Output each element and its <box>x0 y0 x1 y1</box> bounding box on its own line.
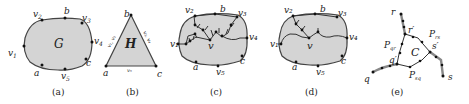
path-r-rp <box>401 14 405 34</box>
label-p-rs: Prs <box>428 29 440 40</box>
label-v: v <box>208 40 214 51</box>
label-s-prime: s′ <box>432 41 439 51</box>
region-label-h: H <box>124 37 137 51</box>
caption-c: (c) <box>210 87 222 97</box>
label-v4: v₄ <box>349 32 358 42</box>
caption-b: (b) <box>126 87 139 97</box>
path-sp-s <box>430 52 443 76</box>
label-a: a <box>292 62 297 72</box>
label-v1: v1 <box>8 48 17 59</box>
label-v2: v₂ <box>185 5 194 15</box>
label-a: a <box>103 68 108 78</box>
path-q-qp <box>373 64 397 72</box>
label-v3: v3 <box>82 13 91 24</box>
label-v2: v₂ <box>284 5 293 15</box>
label-b: b <box>320 4 326 14</box>
label-a: a <box>193 62 198 72</box>
panel-a: G v2 b v3 v4 c v5 a v1 (a) <box>8 6 103 97</box>
caption-a: (a) <box>52 87 64 97</box>
label-v1: v₁ <box>170 39 179 49</box>
panel-c: v v₂ b v₃ v₄ c v₅ a v₁ (c) <box>170 4 258 97</box>
caption-e: (e) <box>391 87 403 97</box>
label-v: v <box>307 40 313 51</box>
caption-d: (d) <box>305 87 318 97</box>
region-label-c: C <box>411 46 420 59</box>
label-p-sq: Psq <box>408 70 421 82</box>
label-q: q <box>364 74 370 84</box>
edge-label-bottom: v₅ <box>127 67 132 73</box>
figure: G v2 b v3 v4 c v5 a v1 (a) H b a c v₁, v… <box>0 0 469 104</box>
label-v4: v₄ <box>249 32 258 42</box>
label-s: s <box>448 72 453 82</box>
vertex-a <box>41 64 44 67</box>
label-v2: v2 <box>33 9 42 20</box>
vertex-b <box>130 14 133 17</box>
label-v5: v₅ <box>316 67 325 77</box>
vertex-c <box>155 65 158 68</box>
label-c: c <box>157 69 162 79</box>
label-c: c <box>240 56 245 66</box>
label-b: b <box>64 6 70 16</box>
label-v4: v4 <box>94 36 103 47</box>
label-q-prime: q′ <box>389 55 397 65</box>
label-a: a <box>34 68 39 78</box>
vertex-v1 <box>23 45 26 48</box>
label-v5: v5 <box>61 71 70 82</box>
label-p-qr: Pqr <box>383 40 396 52</box>
label-b: b <box>124 9 130 19</box>
label-r: r <box>391 7 396 17</box>
label-r-prime: r′ <box>408 25 414 35</box>
vertex-b <box>64 17 67 20</box>
label-v3: v₃ <box>238 8 247 18</box>
panel-e: r r′ s′ s q′ q C Pqr Prs Psq (e) <box>364 7 453 97</box>
region-label-g: G <box>54 37 64 51</box>
region <box>279 14 347 65</box>
label-v3: v₃ <box>338 8 347 18</box>
label-c: c <box>86 58 91 68</box>
label-b: b <box>220 4 226 14</box>
panel-d: v v₂ b v₃ v₄ c v₅ a v₁ (d) <box>270 4 358 97</box>
label-c: c <box>341 56 346 66</box>
label-v1: v₁ <box>270 39 279 49</box>
panel-b: H b a c v₁, v₂ v₃, v₄ v₅ (b) <box>103 9 162 97</box>
label-v5: v₅ <box>216 67 225 77</box>
